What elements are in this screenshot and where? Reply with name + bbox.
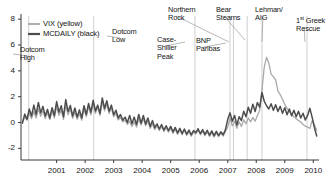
y-tick-label: 2: [3, 92, 15, 101]
series-line-vix: [22, 57, 316, 137]
y-tick-label: 4: [3, 66, 15, 75]
x-tick-label: 2008: [241, 166, 271, 175]
x-tick-label: 2005: [156, 166, 186, 175]
x-tick-label: 2007: [213, 166, 243, 175]
x-tick-label: 2009: [270, 166, 300, 175]
y-tick-label: 8: [3, 14, 15, 23]
y-tick-label: 6: [3, 40, 15, 49]
x-tick-label: 2002: [70, 166, 100, 175]
legend-label-mcdaily: MCDAILY (black): [43, 29, 99, 38]
event-label-case-shiller-peak: Case- Shiller Peak: [157, 36, 177, 61]
event-label-northern-rock: Northern Rock: [168, 6, 196, 23]
event-label-bear-stearns: Bear Stearns: [216, 6, 240, 23]
x-tick-label: 2010: [298, 166, 328, 175]
x-tick-label: 2004: [127, 166, 157, 175]
series-line-mcdaily: [22, 93, 316, 137]
event-label-bnp-paribas: BNP Paribas: [196, 37, 220, 54]
y-tick-label: 0: [3, 118, 15, 127]
event-label-lehman-aig: Lehman/ AIG: [255, 6, 283, 23]
event-label-dotcom-high: Dotcom High: [20, 46, 45, 63]
x-tick-label: 2003: [99, 166, 129, 175]
x-tick-label: 2006: [184, 166, 214, 175]
legend-label-vix: VIX (yellow): [43, 19, 82, 28]
event-label-1st-greek-rescue: 1st Greek Rescue: [296, 17, 325, 34]
event-label-dotcom-low: Dotcom Low: [112, 28, 137, 45]
y-tick-label: -2: [3, 143, 15, 152]
x-tick-label: 2001: [42, 166, 72, 175]
